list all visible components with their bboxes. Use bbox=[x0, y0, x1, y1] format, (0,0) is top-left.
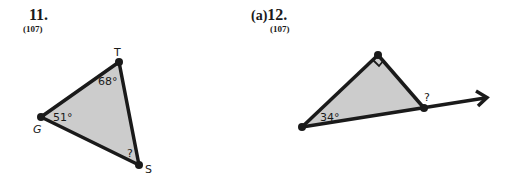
angle-t-label: 68° bbox=[98, 75, 118, 88]
vertex-t-label: T bbox=[113, 46, 121, 59]
vertex-g-label: G bbox=[33, 123, 42, 136]
triangle-tgs: T G S 68° 51° ? bbox=[33, 46, 152, 176]
figures: T G S 68° 51° ? 34° ? bbox=[0, 0, 507, 181]
right-triangle: 34° ? bbox=[298, 51, 487, 131]
angle-g-label: 51° bbox=[53, 111, 73, 124]
angle-34-label: 34° bbox=[320, 111, 340, 124]
angle-s-label: ? bbox=[127, 147, 133, 160]
vertex-s-label: S bbox=[145, 163, 152, 176]
exterior-angle-label: ? bbox=[424, 91, 430, 104]
